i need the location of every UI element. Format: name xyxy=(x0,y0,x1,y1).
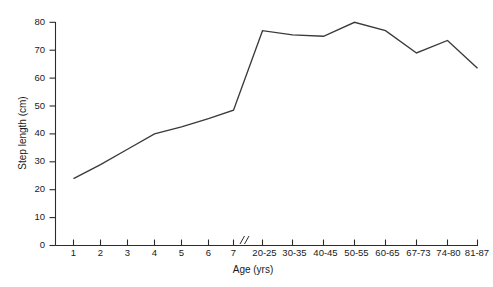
y-tick-label: 10 xyxy=(34,211,45,222)
data-series-line xyxy=(74,22,478,178)
x-tick-label: 7 xyxy=(231,247,236,258)
x-tick-label: 6 xyxy=(206,247,211,258)
y-tick-label: 30 xyxy=(34,155,45,166)
y-tick-label: 80 xyxy=(34,16,45,27)
x-tick-label: 67-73 xyxy=(406,247,430,258)
x-tick-label: 50-55 xyxy=(344,247,368,258)
y-tick-label: 50 xyxy=(34,100,45,111)
y-axis-title: Step length (cm) xyxy=(17,96,28,169)
x-tick-labels: 1 2 3 4 5 6 7 20-25 30-35 40-45 50-55 60… xyxy=(71,247,489,258)
y-tick-label: 60 xyxy=(34,72,45,83)
x-tick-label: 5 xyxy=(179,247,184,258)
x-tick-label: 60-65 xyxy=(375,247,399,258)
x-tick-label: 1 xyxy=(71,247,76,258)
x-tick-label: 30-35 xyxy=(282,247,306,258)
x-axis-title: Age (yrs) xyxy=(233,264,274,275)
axis-break-icon xyxy=(240,236,249,244)
x-tick-label: 20-25 xyxy=(252,247,276,258)
y-tick-label: 0 xyxy=(40,239,45,250)
y-tick-labels: 0 10 20 30 40 50 60 70 80 xyxy=(34,16,45,250)
y-tick-label: 70 xyxy=(34,44,45,55)
y-tick-marks xyxy=(50,22,56,245)
x-tick-label: 74-80 xyxy=(436,247,460,258)
x-tick-marks xyxy=(74,240,478,246)
chart-canvas: 0 10 20 30 40 50 60 70 80 xyxy=(0,0,493,287)
x-tick-label: 3 xyxy=(125,247,130,258)
x-tick-label: 81-87 xyxy=(465,247,489,258)
x-tick-label: 40-45 xyxy=(313,247,337,258)
step-length-line-chart: 0 10 20 30 40 50 60 70 80 xyxy=(0,0,493,287)
y-tick-label: 40 xyxy=(34,127,45,138)
x-tick-label: 4 xyxy=(152,247,157,258)
x-tick-label: 2 xyxy=(98,247,103,258)
y-tick-label: 20 xyxy=(34,183,45,194)
